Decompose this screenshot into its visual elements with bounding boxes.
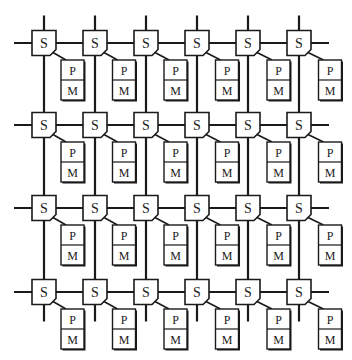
memory-label: M — [67, 166, 78, 180]
processor-label: P — [327, 313, 334, 327]
memory-label: M — [222, 249, 233, 263]
processor-label: P — [275, 146, 282, 160]
switch-label: S — [244, 285, 252, 300]
processor-label: P — [275, 64, 282, 78]
switch-label: S — [142, 285, 150, 300]
switch-label: S — [295, 36, 303, 51]
switch-label: S — [244, 201, 252, 216]
memory-label: M — [273, 333, 284, 347]
node-r2-c5: SPM — [236, 113, 292, 184]
node-r2-c2: SPM — [83, 113, 137, 184]
switch-label: S — [142, 36, 150, 51]
processor-label: P — [172, 313, 179, 327]
mesh-nodes: SPMSPMSPMSPMSPMSPMSPMSPMSPMSPMSPMSPMSPMS… — [32, 31, 343, 351]
memory-label: M — [325, 166, 336, 180]
memory-label: M — [222, 333, 233, 347]
processor-label: P — [224, 313, 231, 327]
processor-label: P — [327, 146, 334, 160]
memory-label: M — [222, 84, 233, 98]
node-r4-c4: SPM — [185, 280, 240, 351]
memory-label: M — [67, 333, 78, 347]
switch-to-pm-link — [308, 302, 324, 310]
switch-to-pm-link — [308, 53, 324, 61]
memory-label: M — [273, 166, 284, 180]
switch-to-pm-link — [53, 53, 66, 61]
node-r3-c6: SPM — [287, 196, 343, 267]
switch-label: S — [193, 118, 201, 133]
processor-label: P — [172, 64, 179, 78]
switch-to-pm-link — [104, 135, 118, 143]
switch-to-pm-link — [257, 218, 272, 226]
switch-label: S — [142, 201, 150, 216]
switch-to-pm-link — [155, 218, 169, 226]
node-r1-c6: SPM — [287, 31, 343, 102]
node-r3-c2: SPM — [83, 196, 137, 267]
switch-label: S — [40, 201, 48, 216]
node-r3-c3: SPM — [134, 196, 189, 267]
processor-label: P — [69, 229, 76, 243]
memory-label: M — [170, 333, 181, 347]
switch-label: S — [40, 285, 48, 300]
memory-label: M — [170, 249, 181, 263]
switch-to-pm-link — [53, 302, 66, 310]
processor-label: P — [275, 229, 282, 243]
node-r1-c2: SPM — [83, 31, 137, 102]
node-r4-c1: SPM — [32, 280, 86, 351]
switch-to-pm-link — [53, 218, 66, 226]
memory-label: M — [325, 333, 336, 347]
switch-label: S — [244, 118, 252, 133]
processor-label: P — [69, 146, 76, 160]
processor-label: P — [121, 313, 128, 327]
processor-label: P — [224, 64, 231, 78]
node-r4-c5: SPM — [236, 280, 292, 351]
switch-to-pm-link — [206, 135, 221, 143]
switch-label: S — [244, 36, 252, 51]
node-r3-c4: SPM — [185, 196, 240, 267]
processor-label: P — [224, 229, 231, 243]
memory-label: M — [119, 84, 130, 98]
mesh-network-diagram: SPMSPMSPMSPMSPMSPMSPMSPMSPMSPMSPMSPMSPMS… — [0, 0, 352, 360]
switch-to-pm-link — [155, 135, 169, 143]
node-r4-c3: SPM — [134, 280, 189, 351]
memory-label: M — [170, 166, 181, 180]
switch-to-pm-link — [104, 53, 118, 61]
processor-label: P — [121, 229, 128, 243]
processor-label: P — [224, 146, 231, 160]
processor-label: P — [327, 64, 334, 78]
memory-label: M — [222, 166, 233, 180]
processor-label: P — [121, 146, 128, 160]
switch-to-pm-link — [104, 302, 118, 310]
memory-label: M — [67, 249, 78, 263]
switch-label: S — [40, 118, 48, 133]
switch-to-pm-link — [155, 302, 169, 310]
memory-label: M — [170, 84, 181, 98]
switch-to-pm-link — [206, 302, 221, 310]
node-r3-c5: SPM — [236, 196, 292, 267]
memory-label: M — [67, 84, 78, 98]
memory-label: M — [119, 333, 130, 347]
switch-label: S — [193, 36, 201, 51]
node-r3-c1: SPM — [32, 196, 86, 267]
switch-label: S — [91, 201, 99, 216]
node-r2-c1: SPM — [32, 113, 86, 184]
memory-label: M — [273, 84, 284, 98]
switch-to-pm-link — [257, 53, 272, 61]
node-r2-c3: SPM — [134, 113, 189, 184]
node-r4-c2: SPM — [83, 280, 137, 351]
switch-to-pm-link — [257, 302, 272, 310]
node-r2-c6: SPM — [287, 113, 343, 184]
switch-to-pm-link — [155, 53, 169, 61]
node-r1-c3: SPM — [134, 31, 189, 102]
processor-label: P — [172, 146, 179, 160]
memory-label: M — [325, 249, 336, 263]
processor-label: P — [69, 313, 76, 327]
memory-label: M — [325, 84, 336, 98]
processor-label: P — [172, 229, 179, 243]
switch-to-pm-link — [257, 135, 272, 143]
memory-label: M — [273, 249, 284, 263]
node-r2-c4: SPM — [185, 113, 240, 184]
switch-label: S — [193, 201, 201, 216]
node-r4-c6: SPM — [287, 280, 343, 351]
switch-to-pm-link — [206, 218, 221, 226]
switch-to-pm-link — [104, 218, 118, 226]
